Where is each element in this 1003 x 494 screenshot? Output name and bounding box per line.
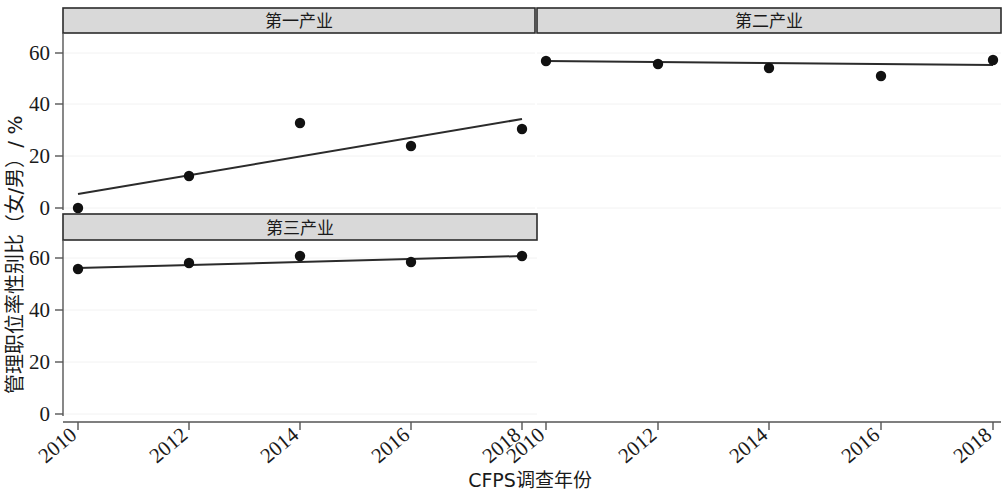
data-point (541, 56, 551, 66)
data-point (988, 55, 998, 65)
panel-primary-ytick-40: 40 (29, 92, 50, 116)
panel-tertiary-ytick-60: 60 (29, 246, 50, 270)
panel-secondary-strip: 第二产业 (537, 8, 1001, 33)
panel-tertiary-strip-label: 第三产业 (266, 218, 334, 238)
panel-primary: 第一产业 0 20 40 60 (29, 8, 535, 220)
data-point (406, 141, 416, 151)
data-point (517, 124, 527, 134)
panel-secondary-strip-label: 第二产业 (735, 11, 803, 31)
facet-chart: 管理职位率性别比（女/男）/ % (0, 0, 1003, 494)
x-axis-label: CFPS调查年份 (468, 469, 592, 491)
panel-tertiary-ytick-40: 40 (29, 298, 50, 322)
panel-primary-strip-label: 第一产业 (265, 11, 333, 31)
panel-primary-strip: 第一产业 (63, 8, 535, 33)
data-point (764, 63, 774, 73)
panel-tertiary-ytick-0: 0 (40, 402, 51, 426)
data-point (73, 264, 83, 274)
panel-primary-ytick-0: 0 (40, 196, 51, 220)
data-point (406, 257, 416, 267)
panel-primary-ytick-60: 60 (29, 41, 50, 65)
data-point (184, 258, 194, 268)
data-point (876, 71, 886, 81)
panel-tertiary-strip: 第三产业 (63, 214, 537, 240)
data-point (184, 171, 194, 181)
data-point (73, 203, 83, 213)
data-point (295, 118, 305, 128)
panel-secondary: 第二产业 (537, 8, 1001, 210)
data-point (295, 251, 305, 261)
panel-primary-ytick-20: 20 (29, 144, 50, 168)
panel-secondary-plot-bg (537, 33, 1001, 210)
panel-tertiary-ytick-20: 20 (29, 350, 50, 374)
panel-tertiary: 第三产业 0 20 40 60 (29, 214, 537, 426)
data-point (653, 59, 663, 69)
chart-root: 管理职位率性别比（女/男）/ % (0, 0, 1003, 494)
data-point (517, 251, 527, 261)
y-axis-label: 管理职位率性别比（女/男）/ % (3, 116, 27, 395)
